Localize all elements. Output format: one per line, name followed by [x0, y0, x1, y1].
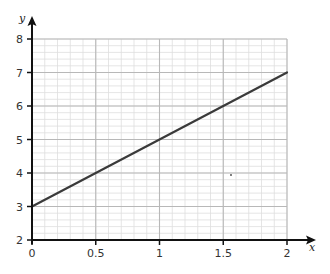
x-tick-label: 2 — [284, 247, 291, 260]
y-tick-label: 3 — [16, 201, 23, 214]
y-tick-label: 6 — [16, 100, 23, 113]
x-tick-label: 0.5 — [87, 247, 105, 260]
x-tick-label: 0 — [29, 247, 36, 260]
x-tick-label: 1 — [156, 247, 163, 260]
x-tick-label: 1.5 — [215, 247, 233, 260]
y-axis-ticks: 2345678 — [16, 33, 32, 247]
y-tick-label: 2 — [16, 234, 23, 247]
x-axis-ticks: 00.511.52 — [29, 240, 291, 260]
y-axis-label: y — [18, 12, 26, 25]
stray-dot-mark — [230, 174, 232, 176]
y-tick-label: 7 — [16, 67, 23, 80]
x-axis-label: x — [309, 241, 316, 254]
y-tick-label: 8 — [16, 33, 23, 46]
y-tick-label: 4 — [16, 167, 23, 180]
axes — [28, 16, 317, 245]
line-chart: 00.511.52 2345678 x y — [0, 0, 330, 274]
y-tick-label: 5 — [16, 134, 23, 147]
